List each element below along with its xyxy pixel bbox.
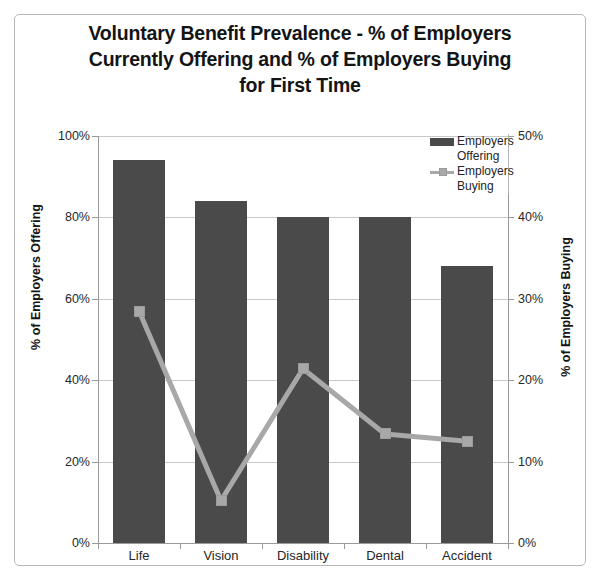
line-marker-disability <box>298 363 309 374</box>
chart-page: Voluntary Benefit Prevalence - % of Empl… <box>0 0 602 586</box>
chart-title: Voluntary Benefit Prevalence - % of Empl… <box>26 20 574 98</box>
legend-item-employers-offering[interactable]: Employers Offering <box>430 134 506 164</box>
legend-label-offering-line2: Offering <box>430 149 506 164</box>
line-series-employers-buying <box>98 136 508 544</box>
y-axis-right-tick-mark <box>508 217 514 218</box>
legend-line-swatch-icon <box>430 171 454 174</box>
y-axis-right-tick-mark <box>508 299 514 300</box>
y-axis-left-ticks: 0%20%40%60%80%100% <box>40 0 90 545</box>
y-axis-left-tick-label: 20% <box>46 455 90 469</box>
chart-legend: Employers Offering Employers Buying <box>430 134 506 194</box>
y-axis-left-tick-label: 100% <box>46 129 90 143</box>
y-axis-right-line <box>508 136 509 544</box>
x-axis-label-accident: Accident <box>412 548 522 563</box>
y-axis-right-title: % of Employers Buying <box>559 207 573 407</box>
y-axis-right-tick-label: 10% <box>518 455 568 469</box>
line-marker-life <box>134 306 145 317</box>
y-axis-left-tick-label: 60% <box>46 292 90 306</box>
y-axis-right-tick-mark <box>508 462 514 463</box>
legend-label-buying-line2: Buying <box>430 179 506 194</box>
y-axis-right-tick-label: 0% <box>518 536 568 550</box>
line-marker-dental <box>380 428 391 439</box>
legend-bar-swatch-icon <box>430 138 454 146</box>
legend-line-marker-icon <box>439 168 447 176</box>
chart-title-line-3: for First Time <box>26 72 574 98</box>
y-axis-right-tick-mark <box>508 380 514 381</box>
y-axis-left-title: % of Employers Offering <box>29 177 43 377</box>
y-axis-right-tick-label: 50% <box>518 129 568 143</box>
line-marker-accident <box>462 436 473 447</box>
line-marker-vision <box>216 495 227 506</box>
chart-title-line-1: Voluntary Benefit Prevalence - % of Empl… <box>26 20 574 46</box>
y-axis-left-tick-label: 80% <box>46 210 90 224</box>
x-axis-labels: LifeVisionDisabilityDentalAccident <box>98 548 508 574</box>
chart-title-line-2: Currently Offering and % of Employers Bu… <box>26 46 574 72</box>
y-axis-left-tick-label: 40% <box>46 373 90 387</box>
legend-item-employers-buying[interactable]: Employers Buying <box>430 164 506 194</box>
